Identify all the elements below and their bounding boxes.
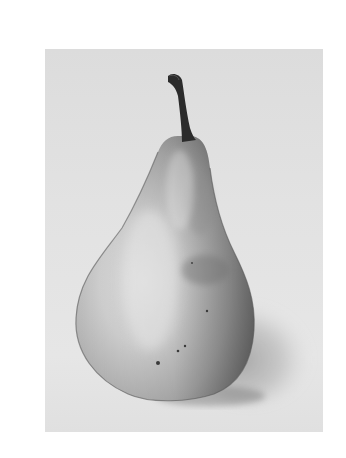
pear-stem: [168, 74, 196, 142]
shade-patch: [181, 255, 229, 285]
highlight: [122, 210, 178, 350]
pear-drawing: [0, 0, 346, 458]
pear-body: [76, 136, 254, 401]
